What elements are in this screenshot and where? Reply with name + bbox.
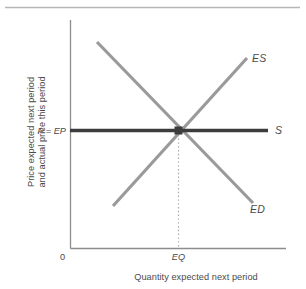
y-axis-title-line-1: Price expected next period xyxy=(26,77,36,187)
x-axis-title: Quantity expected next period xyxy=(134,272,258,282)
equilibrium-quantity-tick-label: EQ xyxy=(172,252,185,262)
supply-price-line-label: S xyxy=(275,124,282,136)
expected-demand-curve xyxy=(97,42,253,203)
figure-root: ES ED S P = EP 0 EQ Quantity expected ne… xyxy=(0,0,306,289)
expected-demand-curve-label: ED xyxy=(250,203,265,215)
origin-label: 0 xyxy=(60,252,65,262)
economics-equilibrium-chart: ES ED S P = EP 0 EQ Quantity expected ne… xyxy=(0,0,306,289)
y-axis-title-line-2: and actual price this period xyxy=(37,76,47,187)
expected-supply-curve-label: ES xyxy=(252,52,266,64)
equilibrium-point-marker xyxy=(175,127,183,135)
